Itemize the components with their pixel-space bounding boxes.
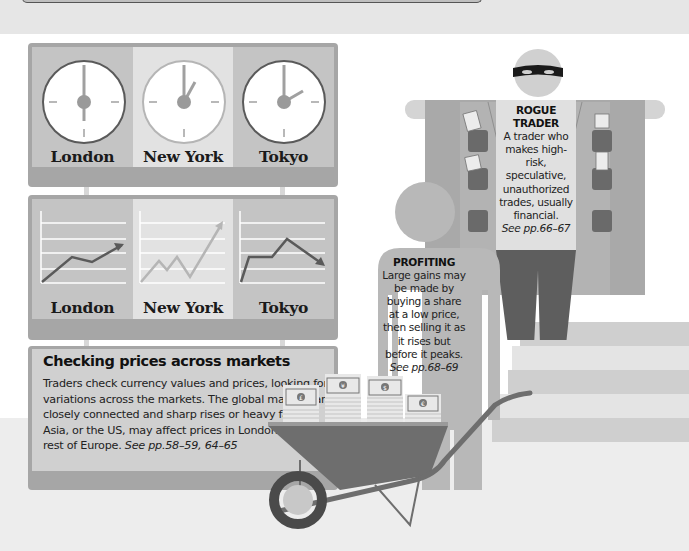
- clock-icon-tokyo: [241, 59, 327, 145]
- world-clocks-panel: London New York Tokyo: [28, 43, 338, 187]
- rogue-trader-line: makes high-risk,: [496, 143, 576, 169]
- svg-text:€: €: [421, 400, 425, 407]
- market-charts-panel: London New York Tokyo: [28, 195, 338, 340]
- cash-stack-euro-icon: €: [405, 394, 441, 423]
- cash-stack-dollar-icon: $: [367, 376, 403, 423]
- profiting-line: be made by: [376, 282, 472, 295]
- clock-label-tokyo: Tokyo: [233, 147, 334, 166]
- line-chart-new-york: [137, 209, 227, 289]
- clock-label-new-york: New York: [133, 147, 233, 166]
- svg-text:¥: ¥: [341, 382, 345, 389]
- svg-text:$: $: [383, 384, 387, 391]
- profiting-line: buying a share: [376, 295, 472, 308]
- clock-cell-tokyo: Tokyo: [233, 47, 334, 167]
- clock-icon-london: [41, 59, 127, 145]
- rogue-trader-line: A trader who: [496, 130, 576, 143]
- chart-label-tokyo: Tokyo: [233, 298, 334, 317]
- cash-stack-yen-icon: ¥: [325, 374, 361, 423]
- line-chart-tokyo: [237, 209, 329, 289]
- top-background-strip: [0, 0, 689, 34]
- profiting-title: PROFITING: [376, 256, 472, 269]
- profiting-line: Large gains may: [376, 269, 472, 282]
- profiting-caption: PROFITING Large gains may be made by buy…: [376, 256, 472, 374]
- chart-cell-tokyo: Tokyo: [233, 199, 334, 319]
- info-box-page-ref: See pp.58–59, 64–65: [125, 439, 238, 452]
- chart-label-london: London: [32, 298, 133, 317]
- line-chart-london: [38, 209, 128, 289]
- rogue-trader-title: ROGUE TRADER: [496, 104, 576, 130]
- cash-stack-pound-icon: £: [283, 385, 319, 423]
- profiting-line: at a low price,: [376, 308, 472, 321]
- staircase: [520, 322, 689, 442]
- clock-icon-new-york: [141, 59, 227, 145]
- profiting-line: it rises but: [376, 335, 472, 348]
- clock-label-london: London: [32, 147, 133, 166]
- svg-text:£: £: [299, 394, 303, 401]
- chart-label-new-york: New York: [133, 298, 233, 317]
- chart-cell-new-york: New York: [133, 199, 233, 319]
- wheelbarrow-of-money: £ ¥ $ €: [255, 360, 545, 545]
- profiting-line: before it peaks.: [376, 348, 472, 361]
- top-panel-edge: [22, 0, 482, 3]
- clock-cell-london: London: [32, 47, 133, 167]
- profiting-line: then selling it as: [376, 321, 472, 334]
- info-box-title: Checking prices across markets: [43, 353, 290, 369]
- clock-cell-new-york: New York: [133, 47, 233, 167]
- chart-cell-london: London: [32, 199, 133, 319]
